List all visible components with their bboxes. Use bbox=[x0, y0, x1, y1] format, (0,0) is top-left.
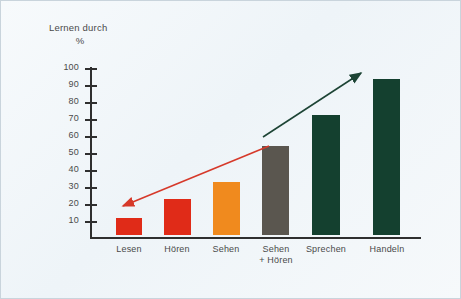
rising-green-arrow bbox=[263, 73, 361, 137]
annotation-arrows bbox=[1, 1, 461, 299]
chart-figure: Lernen durch % 100908070605040302010 Les… bbox=[0, 0, 461, 299]
declining-red-arrow bbox=[123, 146, 269, 206]
